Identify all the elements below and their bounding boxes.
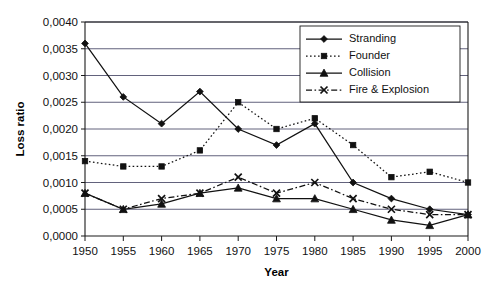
- legend-label-0: Stranding: [349, 32, 396, 44]
- data-point-1-4: [236, 100, 241, 105]
- loss-ratio-line-chart: 0,00000,00050,00100,00150,00200,00250,00…: [0, 0, 485, 290]
- data-point-1-9: [427, 169, 432, 174]
- y-tick-label-5: 0,0025: [43, 96, 78, 108]
- data-point-3-4: [235, 174, 242, 181]
- data-point-3-7: [350, 195, 357, 202]
- x-tick-label-6: 1980: [302, 245, 328, 257]
- data-point-1-8: [389, 174, 394, 179]
- x-tick-label-8: 1990: [379, 245, 405, 257]
- legend-label-3: Fire & Explosion: [349, 83, 429, 95]
- y-tick-labels: 0,00000,00050,00100,00150,00200,00250,00…: [43, 16, 85, 242]
- x-tick-label-2: 1960: [149, 245, 175, 257]
- y-tick-label-2: 0,0010: [43, 177, 78, 189]
- x-tick-label-1: 1955: [111, 245, 137, 257]
- series-collision: [81, 184, 472, 229]
- y-tick-label-3: 0,0015: [43, 150, 78, 162]
- data-point-2-4: [234, 184, 242, 191]
- y-tick-label-8: 0,0040: [43, 16, 78, 28]
- legend-marker-1: [321, 53, 326, 58]
- chart-canvas: 0,00000,00050,00100,00150,00200,00250,00…: [0, 0, 485, 290]
- legend-label-1: Founder: [349, 49, 390, 61]
- x-tick-label-5: 1975: [264, 245, 290, 257]
- x-tick-label-3: 1965: [187, 245, 213, 257]
- y-tick-label-4: 0,0020: [43, 123, 78, 135]
- legend-label-2: Collision: [349, 66, 391, 78]
- data-point-0-5: [273, 142, 280, 149]
- data-point-1-2: [159, 164, 164, 169]
- data-point-0-7: [350, 179, 357, 186]
- data-point-1-6: [312, 116, 317, 121]
- x-tick-label-4: 1970: [225, 245, 251, 257]
- x-tick-label-10: 2000: [455, 245, 481, 257]
- y-tick-label-1: 0,0005: [43, 203, 78, 215]
- data-point-0-8: [388, 195, 395, 202]
- data-point-1-7: [350, 142, 355, 147]
- data-point-1-3: [197, 148, 202, 153]
- y-tick-label-0: 0,0000: [43, 230, 78, 242]
- chart-legend: StrandingFounderCollisionFire & Explosio…: [300, 26, 460, 102]
- data-point-1-1: [121, 164, 126, 169]
- x-tick-label-0: 1950: [72, 245, 98, 257]
- x-tick-label-7: 1985: [340, 245, 366, 257]
- x-tick-label-9: 1995: [417, 245, 443, 257]
- data-point-1-10: [465, 180, 470, 185]
- y-axis-title: Loss ratio: [14, 102, 26, 157]
- x-tick-labels: 1950195519601965197019751980198519901995…: [72, 236, 481, 257]
- x-axis-title: Year: [264, 266, 289, 278]
- y-tick-label-6: 0,0030: [43, 70, 78, 82]
- data-point-1-0: [82, 158, 87, 163]
- y-tick-label-7: 0,0035: [43, 43, 78, 55]
- data-point-1-5: [274, 126, 279, 131]
